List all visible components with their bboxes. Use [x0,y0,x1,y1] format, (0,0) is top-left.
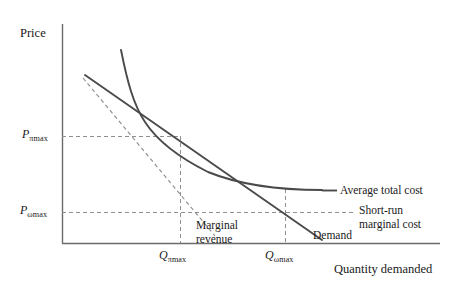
short-run-marginal-cost-label: Short-run marginal cost [359,204,421,231]
x-tick-q-wmax-symbol: Q [265,248,274,262]
average-total-cost-label: Average total cost [340,184,423,197]
x-tick-q-pimax: Qπmax [159,249,186,262]
short-run-marginal-cost-label-line1: Short-run [359,204,421,218]
y-tick-p-wmax: Pωmax [20,204,47,217]
y-tick-p-wmax-subscript: ωmax [27,210,47,219]
y-tick-p-pimax-subscript: πmax [29,134,48,143]
x-tick-q-pimax-symbol: Q [159,248,168,262]
y-axis-title: Price [20,26,46,40]
demand-label: Demand [313,229,352,242]
economics-chart-figure: Price Quantity demanded Pπmax Pωmax Qπma… [0,0,449,289]
demand-curve [85,75,322,240]
x-tick-q-pimax-subscript: πmax [168,255,187,264]
x-tick-q-wmax-subscript: ωmax [274,255,294,264]
x-axis-title: Quantity demanded [334,262,432,276]
marginal-revenue-label-line2: revenue [196,233,238,247]
y-tick-p-pimax: Pπmax [22,128,48,141]
marginal-revenue-label-line1: Marginal [196,219,238,233]
x-tick-q-wmax: Qωmax [265,249,294,262]
marginal-revenue-label: Marginal revenue [196,219,238,246]
short-run-marginal-cost-label-line2: marginal cost [359,218,421,232]
